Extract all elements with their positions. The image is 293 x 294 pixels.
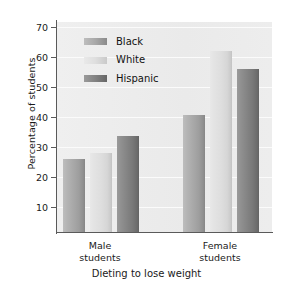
bar-male-white	[90, 153, 112, 232]
y-tick-label-70: 70	[18, 23, 48, 33]
gridline-70	[57, 27, 272, 28]
legend-item-black: Black	[84, 36, 159, 47]
y-tick-label-30: 30	[18, 143, 48, 153]
bar-male-hispanic	[117, 136, 139, 232]
x-axis-title: Dieting to lose weight	[0, 268, 293, 279]
bar-chart: Percentage of students 70 60 50 40 30 20…	[0, 0, 293, 294]
legend-swatch-hispanic-icon	[84, 75, 107, 82]
x-group-label-male-line2: students	[45, 252, 155, 264]
bar-female-hispanic	[237, 69, 259, 232]
bar-female-black	[183, 115, 205, 232]
x-group-label-male-line1: Male	[45, 240, 155, 252]
legend-swatch-white-icon	[84, 57, 107, 64]
x-group-label-female-line2: students	[165, 252, 275, 264]
legend-item-white: White	[84, 55, 159, 66]
legend: Black White Hispanic	[84, 36, 159, 84]
legend-label-black: Black	[116, 37, 143, 47]
legend-label-white: White	[116, 55, 145, 65]
legend-item-hispanic: Hispanic	[84, 73, 159, 84]
legend-label-hispanic: Hispanic	[116, 74, 159, 84]
x-axis-line	[56, 232, 273, 233]
y-tick-label-10: 10	[18, 203, 48, 213]
y-tick-label-60: 60	[18, 53, 48, 63]
y-tick-label-20: 20	[18, 173, 48, 183]
bar-male-black	[63, 159, 85, 232]
y-tick-label-50: 50	[18, 83, 48, 93]
legend-swatch-black-icon	[84, 38, 107, 45]
y-tick-label-40: 40	[18, 113, 48, 123]
x-group-label-male: Male students	[45, 240, 155, 264]
bar-female-white	[210, 51, 232, 232]
x-group-label-female: Female students	[165, 240, 275, 264]
x-group-label-female-line1: Female	[165, 240, 275, 252]
